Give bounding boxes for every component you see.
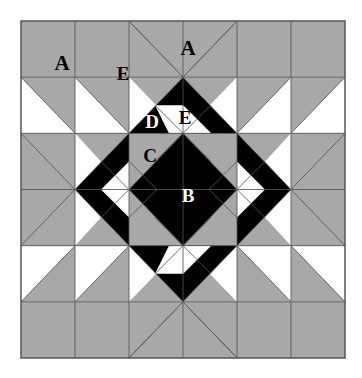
patch-label-e-inner: E xyxy=(179,108,192,127)
patch-label-a-top: A xyxy=(180,38,195,59)
patch-label-a-left: A xyxy=(54,53,69,74)
patch-label-e-upper: E xyxy=(117,64,130,83)
quilt-block-figure: A A E E D C B xyxy=(0,0,362,378)
patch-label-c: C xyxy=(143,146,157,165)
patch-label-d: D xyxy=(145,112,159,131)
patch-label-b: B xyxy=(182,186,195,205)
